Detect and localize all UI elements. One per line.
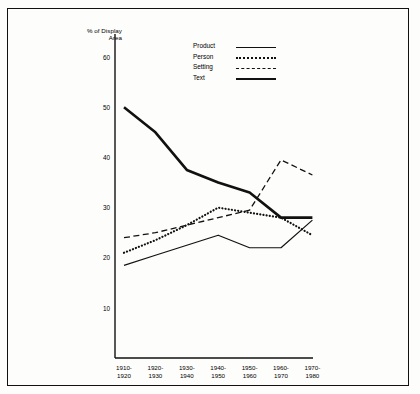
- chart-page: % of Display Area 102030405060 1910- 192…: [0, 0, 420, 394]
- chart-series-lines: [124, 107, 312, 265]
- series-line-setting: [124, 160, 312, 238]
- series-line-product: [124, 220, 312, 265]
- chart-plot-area: [0, 0, 420, 394]
- series-line-person: [124, 208, 312, 253]
- series-line-text: [124, 107, 312, 217]
- axis-lines: [115, 34, 313, 358]
